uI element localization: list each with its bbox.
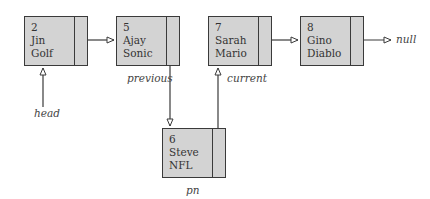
node-gino: 8 Gino Diablo [300, 16, 364, 66]
node-game: Diablo [307, 47, 341, 60]
node-number: 6 [169, 133, 199, 146]
next-pointer-field [350, 17, 363, 65]
next-pointer-field [74, 17, 87, 65]
node-number: 7 [215, 21, 247, 34]
label-null: null [396, 33, 416, 45]
label-previous: previous [127, 72, 173, 84]
node-name: Steve [169, 146, 199, 159]
node-name: Sarah [215, 34, 247, 47]
node-sarah: 7 Sarah Mario [208, 16, 272, 66]
node-jin: 2 Jin Golf [24, 16, 88, 66]
node-game: Sonic [123, 47, 153, 60]
node-game: Golf [31, 47, 53, 60]
node-number: 2 [31, 21, 53, 34]
node-name: Jin [31, 34, 53, 47]
node-game: NFL [169, 159, 199, 172]
node-name: Gino [307, 34, 341, 47]
node-game: Mario [215, 47, 247, 60]
node-steve: 6 Steve NFL [162, 128, 226, 178]
node-name: Ajay [123, 34, 153, 47]
node-number: 5 [123, 21, 153, 34]
next-pointer-field [258, 17, 271, 65]
node-number: 8 [307, 21, 341, 34]
node-ajay: 5 Ajay Sonic [116, 16, 180, 66]
next-pointer-field [166, 17, 179, 65]
label-pn: pn [186, 184, 199, 196]
next-pointer-field [212, 129, 225, 177]
label-head: head [34, 107, 60, 119]
label-current: current [227, 72, 267, 84]
linked-list-diagram: 2 Jin Golf 5 Ajay Sonic 7 Sarah Mario 8 … [0, 0, 430, 199]
